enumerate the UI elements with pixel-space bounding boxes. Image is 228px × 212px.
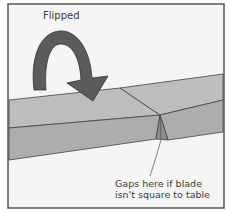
gap-callout-label: Gaps here if blade isn't square to table: [115, 178, 210, 200]
diagram-figure: Flipped Gaps here if blade isn't square …: [0, 0, 228, 212]
flipped-label: Flipped: [43, 10, 80, 21]
gap-callout-line-2: isn't square to table: [115, 189, 210, 200]
gap-callout-line-1: Gaps here if blade: [115, 178, 210, 189]
